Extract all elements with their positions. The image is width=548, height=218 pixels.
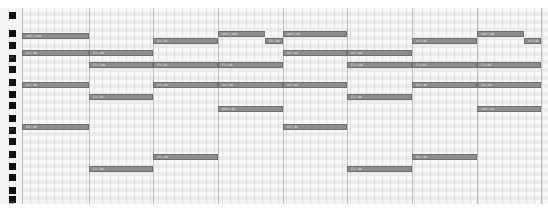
note-block[interactable]: A3 | 96 bbox=[412, 38, 477, 44]
note-block[interactable]: D2 | 88 bbox=[153, 154, 218, 160]
piano-keyboard[interactable]: C4C3C2 bbox=[0, 8, 23, 204]
note-label: C2 | 88 bbox=[351, 167, 362, 171]
note-block[interactable]: A#2 | 92 bbox=[218, 106, 283, 112]
note-label: D2 | 88 bbox=[157, 155, 168, 159]
octave-label: C4 bbox=[9, 55, 14, 60]
grid-line bbox=[302, 8, 303, 204]
note-block[interactable]: D3 | 92 bbox=[477, 82, 541, 88]
note-block[interactable]: C3 | 88 bbox=[347, 94, 412, 100]
note-label: D3 | 96 bbox=[26, 83, 37, 87]
note-label: C3 | 92 bbox=[93, 95, 104, 99]
note-block[interactable]: G3 | 88 bbox=[89, 50, 153, 56]
note-label: D3 | 92 bbox=[157, 83, 168, 87]
black-key[interactable] bbox=[9, 42, 16, 49]
note-block[interactable]: D3 | 96 bbox=[412, 82, 477, 88]
note-block[interactable]: D2 | 88 bbox=[412, 154, 477, 160]
black-key[interactable] bbox=[9, 174, 16, 181]
black-key[interactable] bbox=[9, 91, 16, 98]
note-block[interactable]: D3 | 96 bbox=[22, 82, 89, 88]
note-block[interactable]: F3 | 100 bbox=[347, 62, 412, 68]
note-label: A#2 | 92 bbox=[222, 107, 235, 111]
note-label: A3 | 96 bbox=[416, 39, 427, 43]
note-block[interactable]: G3 | 96 bbox=[22, 50, 89, 56]
note-block[interactable]: C2 | 88 bbox=[89, 166, 153, 172]
grid-line bbox=[118, 8, 119, 204]
octave-label: C2 bbox=[9, 200, 14, 205]
note-block[interactable]: A3 | 92 bbox=[524, 38, 541, 44]
piano-roll: C4C3C2 A#3 | 100A3 | 92A#3 | 100A3 | 88A… bbox=[0, 8, 548, 204]
note-block[interactable]: A3 | 88 bbox=[265, 38, 283, 44]
octave-label: C3 bbox=[9, 127, 14, 132]
grid-line bbox=[294, 8, 295, 204]
grid-line bbox=[126, 8, 127, 204]
note-block[interactable]: A3 | 92 bbox=[153, 38, 218, 44]
note-block[interactable]: A#2 | 92 bbox=[477, 106, 541, 112]
grid-line bbox=[318, 8, 319, 204]
note-label: A#3 | 92 bbox=[481, 32, 494, 36]
grid-line bbox=[142, 8, 143, 204]
note-block[interactable]: C2 | 88 bbox=[347, 166, 412, 172]
note-label: F3 | 92 bbox=[416, 63, 426, 67]
note-label: A#3 | 100 bbox=[26, 34, 41, 38]
grid-line bbox=[110, 8, 111, 204]
grid-line bbox=[102, 8, 103, 204]
black-key[interactable] bbox=[9, 151, 16, 158]
note-block[interactable]: F3 | 100 bbox=[89, 62, 153, 68]
note-label: A3 | 92 bbox=[528, 39, 539, 43]
beat-line bbox=[541, 8, 542, 204]
note-label: A#2 | 92 bbox=[481, 107, 494, 111]
grid-line bbox=[390, 8, 391, 204]
grid-line bbox=[374, 8, 375, 204]
note-label: A3 | 92 bbox=[157, 39, 168, 43]
note-label: A3 | 88 bbox=[269, 39, 280, 43]
black-key[interactable] bbox=[9, 187, 16, 194]
note-block[interactable]: F3 | 96 bbox=[477, 62, 541, 68]
note-block[interactable]: A#3 | 92 bbox=[477, 31, 524, 37]
note-block[interactable]: G3 | 92 bbox=[283, 50, 347, 56]
black-key[interactable] bbox=[9, 102, 16, 109]
note-block[interactable]: G3 | 88 bbox=[347, 50, 412, 56]
black-key[interactable] bbox=[9, 115, 16, 122]
black-key[interactable] bbox=[9, 12, 16, 19]
note-block[interactable]: D3 | 88 bbox=[218, 82, 283, 88]
note-label: G3 | 88 bbox=[93, 51, 104, 55]
note-block[interactable]: A#3 | 100 bbox=[218, 31, 265, 37]
note-label: F3 | 96 bbox=[481, 63, 491, 67]
black-key[interactable] bbox=[9, 30, 16, 37]
note-label: F3 | 100 bbox=[93, 63, 105, 67]
note-label: D3 | 92 bbox=[287, 83, 298, 87]
note-label: G3 | 88 bbox=[351, 51, 362, 55]
black-key[interactable] bbox=[9, 79, 16, 86]
grid-line bbox=[342, 8, 343, 204]
note-block[interactable]: D3 | 92 bbox=[153, 82, 218, 88]
grid-line bbox=[350, 8, 351, 204]
note-block[interactable]: F3 | 92 bbox=[153, 62, 218, 68]
note-block[interactable]: A#3 | 92 bbox=[283, 31, 347, 37]
note-label: A#3 | 92 bbox=[287, 32, 300, 36]
beat-line bbox=[283, 8, 284, 204]
note-label: D2 | 88 bbox=[416, 155, 427, 159]
note-label: D3 | 96 bbox=[416, 83, 427, 87]
black-key[interactable] bbox=[9, 163, 16, 170]
note-grid[interactable]: A#3 | 100A3 | 92A#3 | 100A3 | 88A#3 | 92… bbox=[22, 8, 548, 204]
note-label: C3 | 88 bbox=[351, 95, 362, 99]
note-block[interactable]: F3 | 92 bbox=[412, 62, 477, 68]
black-key[interactable] bbox=[9, 66, 16, 73]
black-key[interactable] bbox=[9, 138, 16, 145]
note-block[interactable]: D3 | 92 bbox=[283, 82, 347, 88]
grid-line bbox=[286, 8, 287, 204]
note-label: F3 | 100 bbox=[351, 63, 363, 67]
beat-line bbox=[89, 8, 90, 204]
grid-line bbox=[406, 8, 407, 204]
note-block[interactable]: G2 | 92 bbox=[283, 124, 347, 130]
note-block[interactable]: C3 | 92 bbox=[89, 94, 153, 100]
note-label: D3 | 92 bbox=[481, 83, 492, 87]
note-block[interactable]: G2 | 92 bbox=[22, 124, 89, 130]
grid-line bbox=[398, 8, 399, 204]
note-label: F3 | 92 bbox=[157, 63, 167, 67]
grid-line bbox=[334, 8, 335, 204]
note-label: F3 | 88 bbox=[222, 63, 232, 67]
grid-line bbox=[94, 8, 95, 204]
note-block[interactable]: F3 | 88 bbox=[218, 62, 283, 68]
note-block[interactable]: A#3 | 100 bbox=[22, 33, 89, 39]
